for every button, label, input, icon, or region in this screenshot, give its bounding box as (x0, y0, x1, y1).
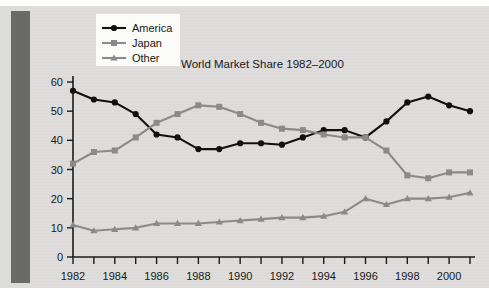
data-point-square (70, 161, 76, 167)
y-tick-label: 40 (51, 134, 63, 146)
data-point-circle (91, 96, 97, 102)
data-point-square (133, 134, 139, 140)
y-tick-label: 60 (51, 76, 63, 88)
data-point-square (425, 175, 431, 181)
data-point-circle (446, 102, 452, 108)
data-point-circle (258, 140, 264, 146)
data-point-square (237, 111, 243, 117)
series-japan (70, 102, 473, 181)
series-other (69, 189, 473, 233)
figure-page: World Market Share 1982–2000 60504030201… (0, 0, 489, 294)
data-point-square (154, 120, 160, 126)
line-chart: World Market Share 1982–2000 60504030201… (30, 6, 489, 288)
data-point-square (258, 120, 264, 126)
data-point-square (342, 134, 348, 140)
data-point-square (383, 148, 389, 154)
x-tick-label: 1986 (144, 270, 168, 282)
data-point-square (321, 132, 327, 138)
x-tick-label: 1990 (228, 270, 252, 282)
x-tick-label: 1996 (353, 270, 377, 282)
legend-label-other: Other (132, 52, 160, 64)
chart-area: World Market Share 1982–2000 60504030201… (30, 6, 489, 288)
x-tick-label: 1998 (395, 270, 419, 282)
legend-label-japan: Japan (132, 37, 162, 49)
series-america (70, 88, 473, 153)
data-point-circle (70, 88, 76, 94)
data-point-triangle (362, 195, 369, 201)
data-point-circle (425, 93, 431, 99)
data-point-circle (237, 140, 243, 146)
data-point-square (279, 126, 285, 132)
data-point-circle (174, 134, 180, 140)
chart-legend: AmericaJapanOther (96, 14, 180, 66)
data-point-circle (216, 146, 222, 152)
series-line-japan (73, 105, 470, 178)
x-axis-labels: 1982198419861988199019921994199619982000 (61, 270, 462, 282)
data-point-square (112, 148, 118, 154)
data-point-square (300, 127, 306, 133)
y-tick-label: 50 (51, 105, 63, 117)
data-point-square (174, 111, 180, 117)
data-point-square (216, 104, 222, 110)
data-point-circle (404, 99, 410, 105)
data-point-circle (195, 146, 201, 152)
data-point-square (404, 172, 410, 178)
data-point-circle (300, 134, 306, 140)
x-tick-label: 1984 (103, 270, 127, 282)
y-tick-label: 10 (51, 222, 63, 234)
data-point-square (363, 134, 369, 140)
data-point-circle (279, 142, 285, 148)
data-point-circle (112, 99, 118, 105)
y-tick-label: 30 (51, 164, 63, 176)
data-point-square (446, 169, 452, 175)
y-axis-labels: 6050403020100 (51, 76, 63, 263)
y-tick-label: 0 (57, 251, 63, 263)
data-series-layer (69, 88, 473, 234)
y-axis-ticks (67, 82, 73, 257)
x-tick-label: 2000 (437, 270, 461, 282)
legend-label-america: America (132, 22, 173, 34)
data-point-square (91, 149, 97, 155)
x-tick-label: 1982 (61, 270, 85, 282)
data-point-square (195, 102, 201, 108)
data-point-circle (153, 131, 159, 137)
y-tick-label: 20 (51, 193, 63, 205)
x-axis-ticks (73, 257, 470, 264)
data-point-circle (383, 118, 389, 124)
data-point-circle (111, 25, 117, 31)
data-point-square (111, 40, 117, 46)
x-tick-label: 1988 (186, 270, 210, 282)
data-point-triangle (69, 221, 76, 227)
x-tick-label: 1992 (270, 270, 294, 282)
series-line-other (73, 193, 470, 231)
data-point-square (467, 169, 473, 175)
book-spine (11, 11, 30, 283)
chart-title: World Market Share 1982–2000 (181, 58, 344, 70)
data-point-circle (342, 127, 348, 133)
x-tick-label: 1994 (311, 270, 335, 282)
data-point-circle (467, 108, 473, 114)
data-point-circle (133, 111, 139, 117)
